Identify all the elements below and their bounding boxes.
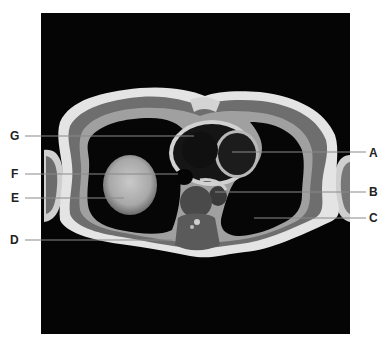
label-c: C [369,211,378,225]
label-d: D [10,233,19,247]
mri-figure: G F E D A B C [0,0,385,342]
label-e: E [11,191,19,205]
liver [103,155,157,215]
label-f: F [11,167,18,181]
label-g: G [10,129,19,143]
esophagus [175,169,193,185]
label-a: A [369,146,378,160]
label-b: B [369,185,378,199]
